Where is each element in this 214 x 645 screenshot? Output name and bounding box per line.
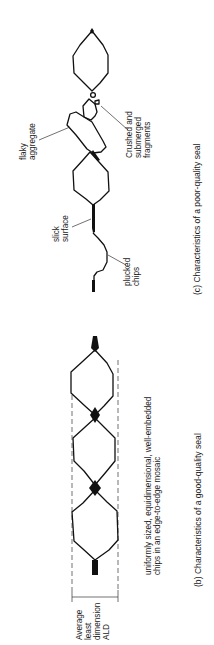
chip-good-2 xyxy=(73,418,115,485)
svg-text:least: least xyxy=(84,622,93,640)
chip-middle xyxy=(73,152,109,205)
plucked-chips-profile xyxy=(93,233,107,290)
svg-text:uniformly sized, equidimension: uniformly sized, equidimensional, well-e… xyxy=(144,396,153,575)
svg-text:fragments: fragments xyxy=(143,122,152,158)
svg-text:plucked: plucked xyxy=(123,257,132,286)
label-crushed-fragments: Crushed and submerged fragments xyxy=(125,111,152,158)
svg-text:flaky: flaky xyxy=(19,142,28,160)
flaky-aggregate-chip xyxy=(67,112,106,153)
leader-crushed-fragments xyxy=(101,106,128,130)
chip-good-3 xyxy=(72,490,118,560)
panel-b-good-quality-seal: Average least dimension ALD uniformly si… xyxy=(71,336,203,640)
label-slick-surface: slick surface xyxy=(52,215,70,242)
label-flaky-aggregate: flaky aggregate xyxy=(19,123,37,160)
svg-text:Average: Average xyxy=(75,609,84,640)
seal-quality-diagram: flaky aggregate Crushed and submerged fr… xyxy=(0,0,214,645)
slick-surface-binder xyxy=(92,204,95,233)
svg-text:chips: chips xyxy=(132,267,141,286)
binder-node-bottom xyxy=(92,560,98,575)
caption-panel-c: (c) Characteristics of a poor-quality se… xyxy=(192,144,202,295)
svg-text:aggregate: aggregate xyxy=(28,123,37,160)
svg-text:chips in an edge-to-edge mosai: chips in an edge-to-edge mosaic xyxy=(153,457,162,575)
svg-text:slick: slick xyxy=(52,225,61,242)
panel-c-poor-quality-seal: flaky aggregate Crushed and submerged fr… xyxy=(19,28,202,295)
label-good-seal-description: uniformly sized, equidimensional, well-e… xyxy=(144,396,162,575)
chip-good-1 xyxy=(71,350,113,415)
crushed-fragment-2 xyxy=(95,100,99,104)
svg-text:dimension: dimension xyxy=(93,602,102,640)
svg-text:surface: surface xyxy=(61,215,70,242)
crushed-fragment-1 xyxy=(91,93,96,98)
label-plucked-chips: plucked chips xyxy=(123,257,141,286)
svg-text:ALD: ALD xyxy=(102,624,111,640)
svg-text:Crushed and: Crushed and xyxy=(125,111,134,158)
chip-top xyxy=(73,31,108,91)
leader-flaky-aggregate xyxy=(39,127,70,140)
svg-text:submerged: submerged xyxy=(134,117,143,158)
leader-slick-surface xyxy=(72,219,91,227)
caption-panel-b: (b) Characteristics of a good-quality se… xyxy=(193,433,203,587)
label-ald: Average least dimension ALD xyxy=(75,602,111,640)
binder-tail xyxy=(92,280,95,292)
